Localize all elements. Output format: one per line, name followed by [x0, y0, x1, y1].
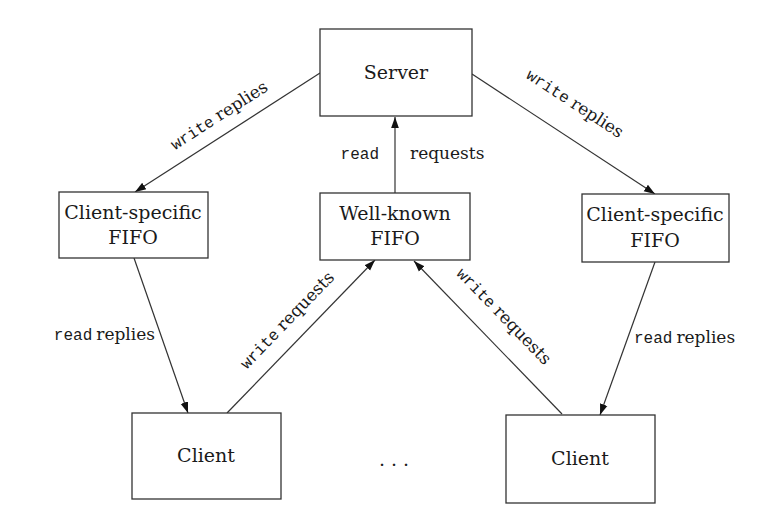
right-write-requests-call: write — [452, 265, 498, 312]
left-read-replies-label: readreplies — [54, 324, 155, 345]
left-read-replies-call: read — [54, 327, 92, 345]
svg-text:writerequests: writerequests — [235, 267, 339, 373]
left-client-node: Client — [132, 413, 281, 499]
right-write-replies-call: write — [523, 67, 573, 108]
left-write-requests-call: write — [237, 326, 283, 373]
well-known-fifo-label-line1: Well-known — [339, 202, 451, 224]
right-write-requests-text: requests — [490, 301, 556, 368]
left-write-requests-arrow — [227, 260, 375, 413]
right-fifo-label-line1: Client-specific — [586, 203, 723, 225]
right-write-replies-text: replies — [567, 93, 627, 142]
right-client-node: Client — [506, 415, 655, 503]
read-requests-text: requests — [410, 143, 484, 163]
left-fifo-label-line2: FIFO — [108, 226, 157, 248]
server-label: Server — [364, 61, 429, 83]
left-write-requests-label: writerequests — [235, 267, 339, 373]
left-write-replies-label: writereplies — [166, 76, 271, 154]
server-node: Server — [320, 29, 472, 116]
left-fifo-label-line1: Client-specific — [64, 201, 201, 223]
fifo-client-server-diagram: Server Client-specific FIFO Well-known F… — [0, 0, 776, 529]
left-client-label: Client — [177, 444, 235, 466]
right-client-label: Client — [551, 447, 609, 469]
right-read-replies-call: read — [634, 330, 672, 348]
left-write-replies-arrow — [135, 73, 320, 192]
well-known-fifo-label-line2: FIFO — [370, 227, 419, 249]
svg-text:writereplies: writereplies — [523, 64, 628, 143]
right-client-fifo-node: Client-specific FIFO — [582, 194, 729, 262]
right-write-replies-label: writereplies — [523, 64, 628, 143]
left-write-replies-call: write — [168, 113, 218, 154]
read-requests-call: read — [341, 146, 379, 164]
left-read-replies-text: replies — [96, 324, 155, 344]
left-write-replies-text: replies — [211, 76, 271, 125]
right-fifo-label-line2: FIFO — [630, 229, 679, 251]
left-write-requests-text: requests — [272, 267, 338, 334]
well-known-fifo-node: Well-known FIFO — [320, 193, 470, 260]
svg-text:writereplies: writereplies — [166, 76, 271, 154]
left-client-fifo-node: Client-specific FIFO — [59, 192, 208, 258]
ellipsis-more-clients: . . . — [379, 448, 409, 470]
right-read-replies-text: replies — [676, 327, 735, 347]
right-read-replies-label: readreplies — [634, 327, 735, 348]
